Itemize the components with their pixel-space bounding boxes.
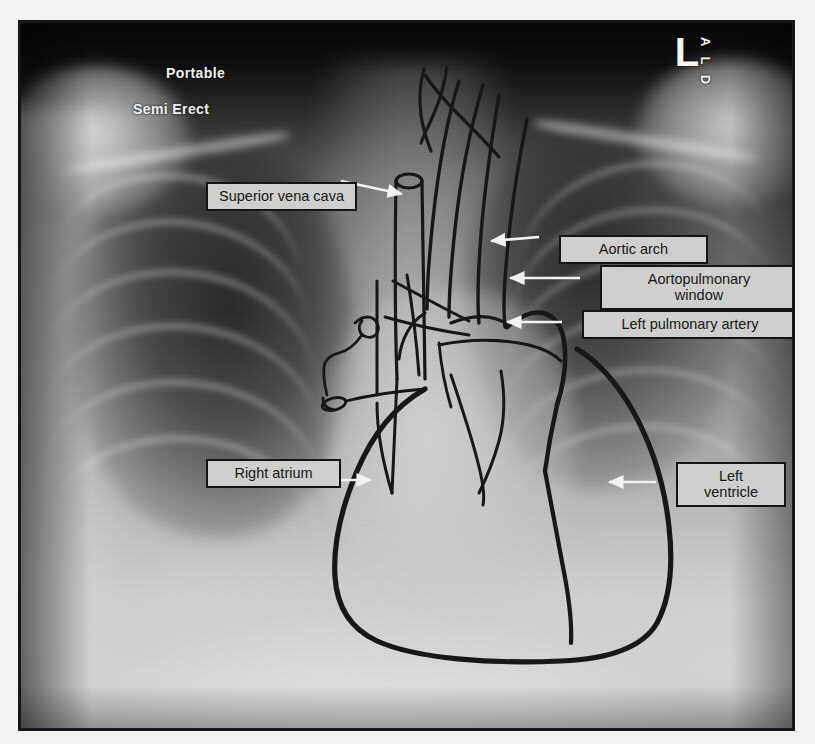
label-left-pulmonary-artery: Left pulmonary artery [582, 310, 795, 339]
label-left-ventricle: Left ventricle [676, 462, 786, 507]
label-aortopulmonary-window: Aortopulmonary window [600, 265, 795, 310]
label-superior-vena-cava: Superior vena cava [206, 182, 357, 211]
technique-text-semi-erect: Semi Erect [133, 101, 209, 117]
label-right-atrium: Right atrium [206, 459, 341, 488]
arrow-aortic-arch [491, 237, 539, 241]
side-marker-initials: A L D [698, 37, 713, 88]
annotation-arrows-layer [21, 23, 792, 728]
label-aortic-arch: Aortic arch [559, 235, 708, 264]
technique-text-portable: Portable [166, 65, 225, 81]
radiograph-frame: Portable Semi Erect L A L D Superior ven… [18, 20, 795, 731]
side-marker: L A L D [675, 35, 764, 70]
screenshot-root: Portable Semi Erect L A L D Superior ven… [0, 0, 815, 744]
side-marker-letter-l: L [675, 35, 699, 70]
